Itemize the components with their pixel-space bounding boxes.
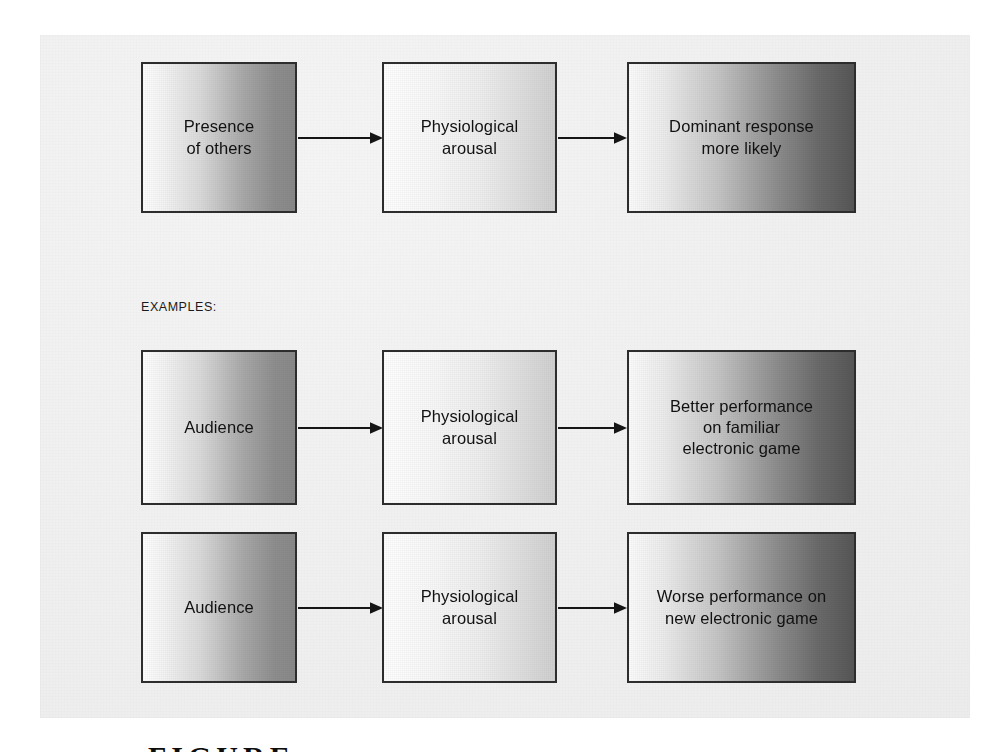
arrow-1 (298, 131, 384, 145)
node-label: Dominant response more likely (661, 116, 822, 158)
node-label: Worse performance on new electronic game (649, 586, 835, 628)
node-physiological-arousal-2: Physiological arousal (382, 350, 557, 505)
examples-label: EXAMPLES: (141, 300, 217, 314)
node-worse-performance: Worse performance on new electronic game (627, 532, 856, 683)
node-label: Better performance on familiar electroni… (662, 396, 821, 459)
arrow-3 (298, 421, 384, 435)
figure-caption: FIGURE (148, 742, 295, 752)
node-label: Physiological arousal (413, 586, 527, 628)
node-label: Physiological arousal (413, 116, 527, 158)
node-physiological-arousal-3: Physiological arousal (382, 532, 557, 683)
node-label: Audience (176, 417, 262, 438)
arrow-4 (558, 421, 628, 435)
node-audience-2: Audience (141, 532, 297, 683)
node-audience-1: Audience (141, 350, 297, 505)
diagram-canvas: Presence of others Physiological arousal… (40, 35, 970, 718)
arrow-2 (558, 131, 628, 145)
node-dominant-response: Dominant response more likely (627, 62, 856, 213)
arrow-6 (558, 601, 628, 615)
node-label: Presence of others (176, 116, 263, 158)
node-physiological-arousal-1: Physiological arousal (382, 62, 557, 213)
figure-panel: Presence of others Physiological arousal… (40, 35, 970, 718)
node-better-performance: Better performance on familiar electroni… (627, 350, 856, 505)
arrow-5 (298, 601, 384, 615)
node-presence-of-others: Presence of others (141, 62, 297, 213)
node-label: Physiological arousal (413, 406, 527, 448)
node-label: Audience (176, 597, 262, 618)
